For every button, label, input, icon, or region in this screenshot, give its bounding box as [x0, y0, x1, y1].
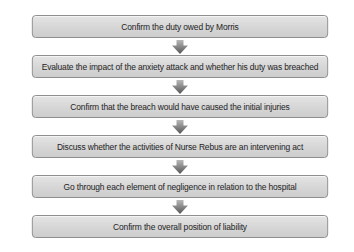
- flow-connector: [19, 118, 341, 135]
- flow-step-evaluate-breach: Evaluate the impact of the anxiety attac…: [32, 55, 328, 78]
- flow-step-label: Discuss whether the activities of Nurse …: [57, 142, 303, 152]
- down-arrow-icon: [172, 40, 188, 54]
- flow-step-intervening-act: Discuss whether the activities of Nurse …: [32, 135, 328, 158]
- flow-step-label: Go through each element of negligence in…: [63, 182, 296, 192]
- flow-connector: [19, 158, 341, 175]
- flow-step-label: Confirm the overall position of liabilit…: [113, 222, 247, 232]
- flowchart: Confirm the duty owed by Morris Evaluate…: [19, 15, 341, 238]
- flow-step-label: Confirm the duty owed by Morris: [121, 22, 238, 32]
- flow-step-label: Confirm that the breach would have cause…: [70, 102, 289, 112]
- flow-connector: [19, 198, 341, 215]
- flow-step-confirm-duty: Confirm the duty owed by Morris: [32, 15, 328, 38]
- flow-connector: [19, 78, 341, 95]
- flow-step-overall-liability: Confirm the overall position of liabilit…: [32, 215, 328, 238]
- down-arrow-icon: [172, 80, 188, 94]
- down-arrow-icon: [172, 200, 188, 214]
- flow-step-label: Evaluate the impact of the anxiety attac…: [42, 62, 319, 72]
- flow-step-confirm-causation: Confirm that the breach would have cause…: [32, 95, 328, 118]
- down-arrow-icon: [172, 120, 188, 134]
- down-arrow-icon: [172, 160, 188, 174]
- flow-connector: [19, 38, 341, 55]
- flow-step-hospital-negligence: Go through each element of negligence in…: [32, 175, 328, 198]
